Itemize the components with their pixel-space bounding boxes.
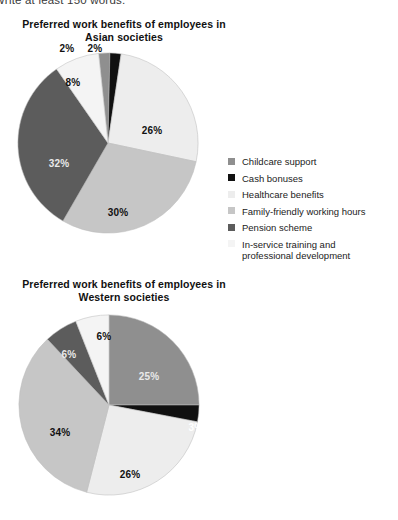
instruction-text-clipped: Write at least 150 words. bbox=[0, 0, 398, 8]
figure-asian-societies: Preferred work benefits of employees in … bbox=[0, 18, 398, 254]
pie-slices-western bbox=[19, 315, 199, 495]
legend-item-childcare-support[interactable]: Childcare support bbox=[228, 156, 366, 167]
chart-title-asian-line1: Preferred work benefits of employees in bbox=[22, 18, 225, 30]
legend-swatch-icon bbox=[228, 224, 235, 231]
chart-title-asian-line2: Asian societies bbox=[6, 31, 242, 44]
legend-item-cash-bonuses[interactable]: Cash bonuses bbox=[228, 173, 366, 184]
instruction-text: Write at least 150 words. bbox=[0, 0, 398, 6]
legend-item-healthcare-benefits[interactable]: Healthcare benefits bbox=[228, 189, 366, 200]
legend-label-line2: professional development bbox=[242, 250, 350, 261]
slice-label-pension-western: 6% bbox=[62, 349, 77, 360]
legend-swatch-icon bbox=[228, 207, 235, 214]
legend-label-line1: In-service training and bbox=[242, 239, 335, 250]
chart-title-western: Preferred work benefits of employees in … bbox=[6, 278, 242, 304]
slice-label-training-western: 6% bbox=[97, 331, 112, 342]
pie-chart-western: 25% 3% 26% 34% 6% 6% bbox=[18, 314, 200, 496]
legend-item-in-service-training[interactable]: In-service training and professional dev… bbox=[228, 239, 366, 261]
legend-label-multiline: In-service training and professional dev… bbox=[242, 239, 350, 261]
slice-label-healthcare-western: 26% bbox=[120, 469, 141, 480]
pie-slice bbox=[109, 315, 199, 405]
slice-label-cash-asian: 2% bbox=[88, 43, 103, 54]
legend-asian: Childcare support Cash bonuses Healthcar… bbox=[228, 156, 366, 266]
chart-area-asian: 2% 2% 26% 30% 32% 8% Childcare support C… bbox=[0, 44, 398, 254]
pie-slice bbox=[108, 54, 198, 162]
legend-item-family-friendly-working-hours[interactable]: Family-friendly working hours bbox=[228, 206, 366, 217]
legend-swatch-icon bbox=[228, 191, 235, 198]
chart-title-western-line1: Preferred work benefits of employees in bbox=[22, 278, 225, 290]
pie-chart-asian: 2% 2% 26% 30% 32% 8% bbox=[17, 52, 199, 234]
slice-label-cash-western: 3% bbox=[189, 422, 204, 433]
legend-label: Cash bonuses bbox=[242, 173, 303, 184]
legend-label: Childcare support bbox=[242, 156, 316, 167]
legend-item-pension-scheme[interactable]: Pension scheme bbox=[228, 222, 366, 233]
slice-label-childcare-asian: 32% bbox=[49, 158, 70, 169]
figure-page: Write at least 150 words. Preferred work… bbox=[0, 0, 398, 520]
slice-label-childcare-western: 25% bbox=[139, 371, 160, 382]
legend-swatch-icon bbox=[228, 174, 235, 181]
legend-label: Pension scheme bbox=[242, 222, 312, 233]
chart-title-asian: Preferred work benefits of employees in … bbox=[6, 18, 242, 44]
slice-label-family-western: 34% bbox=[50, 427, 71, 438]
legend-label: Healthcare benefits bbox=[242, 189, 324, 200]
slice-label-healthcare-asian: 26% bbox=[142, 125, 163, 136]
figure-western-societies: Preferred work benefits of employees in … bbox=[0, 278, 398, 514]
legend-swatch-icon bbox=[228, 158, 235, 165]
legend-label: Family-friendly working hours bbox=[242, 206, 366, 217]
legend-swatch-icon bbox=[228, 240, 235, 247]
slice-label-family-asian: 30% bbox=[108, 207, 129, 218]
chart-title-western-line2: Western societies bbox=[6, 291, 242, 304]
slice-label-training-asian: 8% bbox=[66, 77, 81, 88]
slice-label-pension-asian: 2% bbox=[60, 43, 75, 54]
chart-area-western: 25% 3% 26% 34% 6% 6% Childcare support C… bbox=[0, 304, 398, 514]
